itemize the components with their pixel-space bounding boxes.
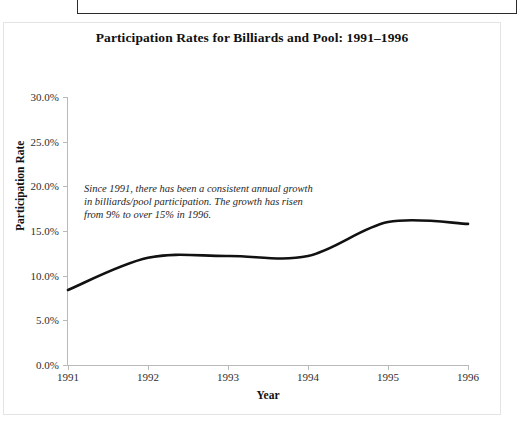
y-tick-label: 25.0% bbox=[31, 136, 59, 148]
y-tick-label: 10.0% bbox=[31, 270, 59, 282]
x-tick-mark bbox=[148, 365, 149, 370]
data-series-line bbox=[68, 97, 468, 365]
x-tick-label: 1993 bbox=[217, 371, 239, 383]
y-tick-label: 20.0% bbox=[31, 180, 59, 192]
y-tick-label: 0.0% bbox=[36, 359, 59, 371]
x-tick-mark bbox=[308, 365, 309, 370]
plot-area: 0.0%5.0%10.0%15.0%20.0%25.0%30.0% 199119… bbox=[68, 97, 468, 365]
x-tick-label: 1992 bbox=[137, 371, 159, 383]
chart-title: Participation Rates for Billiards and Po… bbox=[0, 30, 504, 46]
x-axis-title: Year bbox=[68, 389, 468, 401]
x-tick-mark bbox=[388, 365, 389, 370]
y-tick-label: 15.0% bbox=[31, 225, 59, 237]
x-tick-label: 1996 bbox=[457, 371, 479, 383]
y-tick-label: 30.0% bbox=[31, 91, 59, 103]
x-axis-line bbox=[67, 365, 468, 366]
y-axis-title: Participation Rate bbox=[14, 141, 26, 231]
x-tick-label: 1991 bbox=[57, 371, 79, 383]
y-tick-label: 5.0% bbox=[36, 314, 59, 326]
x-tick-mark bbox=[68, 365, 69, 370]
x-tick-label: 1994 bbox=[297, 371, 319, 383]
x-tick-mark bbox=[468, 365, 469, 370]
x-tick-mark bbox=[228, 365, 229, 370]
page-running-header: Recreation Trends and Markets: The 21st … bbox=[77, 0, 517, 14]
x-tick-label: 1995 bbox=[377, 371, 399, 383]
